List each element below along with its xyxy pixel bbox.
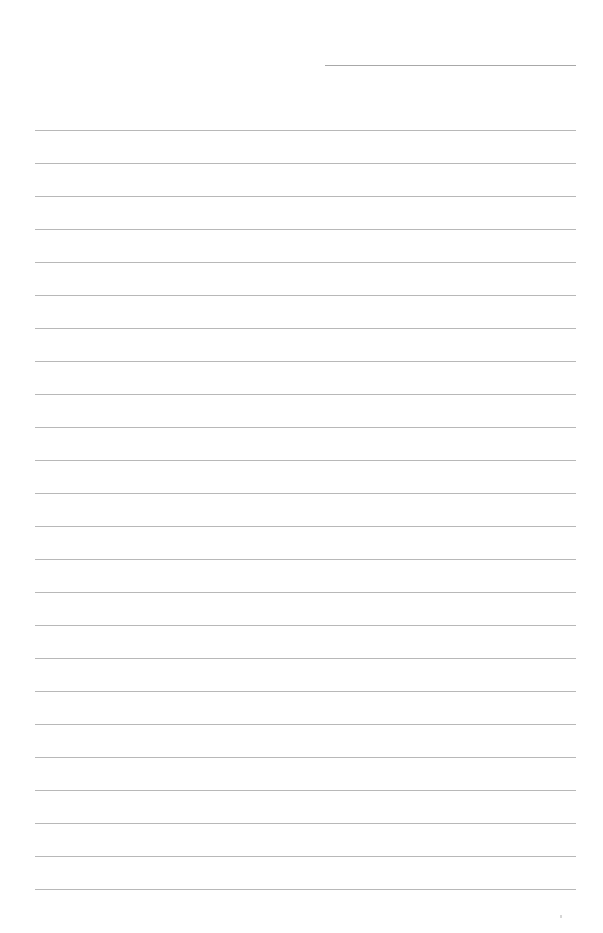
ruled-line [35, 691, 576, 692]
ruled-line [35, 856, 576, 857]
ruled-line [35, 229, 576, 230]
ruled-line [35, 262, 576, 263]
ruled-line [35, 724, 576, 725]
ruled-line [35, 592, 576, 593]
ruled-line [35, 625, 576, 626]
ruled-line [35, 493, 576, 494]
ruled-line [35, 526, 576, 527]
ruled-line [35, 823, 576, 824]
ruled-line [35, 889, 576, 890]
ruled-line [35, 196, 576, 197]
page-mark [560, 915, 562, 918]
ruled-line [35, 427, 576, 428]
ruled-line [35, 163, 576, 164]
ruled-line [35, 130, 576, 131]
ruled-line [35, 757, 576, 758]
ruled-line [35, 394, 576, 395]
name-date-line [325, 65, 576, 66]
ruled-line [35, 790, 576, 791]
ruled-line [35, 658, 576, 659]
ruled-line [35, 295, 576, 296]
lined-paper-page [0, 0, 603, 933]
ruled-line [35, 460, 576, 461]
ruled-line [35, 361, 576, 362]
ruled-line [35, 328, 576, 329]
ruled-line [35, 559, 576, 560]
